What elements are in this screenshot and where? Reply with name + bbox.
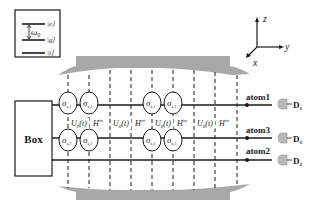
box-label: Box bbox=[24, 133, 43, 145]
detector-d1: D1 bbox=[278, 99, 303, 111]
box: Box bbox=[15, 101, 52, 176]
svg-text:D2: D2 bbox=[293, 156, 303, 167]
svg-text:U0(t): U0(t) bbox=[113, 119, 129, 129]
x-axis-label: x bbox=[252, 57, 258, 68]
level-i-label: |i⟩ bbox=[47, 49, 54, 57]
atom2-dot bbox=[245, 158, 249, 162]
detector-icon bbox=[278, 155, 287, 165]
sigma-operators-bottom: σx,3 σx,3 σx,3 σx,3 bbox=[59, 129, 182, 151]
z-axis-label: z bbox=[262, 13, 267, 24]
atom1-dot bbox=[245, 103, 249, 107]
svg-text:U0(t): U0(t) bbox=[71, 119, 87, 129]
svg-text:D3: D3 bbox=[293, 134, 303, 145]
detector-icon bbox=[278, 99, 287, 109]
coordinate-axes: z y x bbox=[246, 13, 290, 68]
atom2-label: atom2 bbox=[246, 146, 270, 156]
top-cavity-mirror bbox=[58, 56, 250, 75]
y-axis-label: y bbox=[284, 41, 290, 52]
detector-d2: D2 bbox=[278, 155, 303, 167]
energy-level-legend: ω0 |e⟩ |g⟩ |i⟩ bbox=[15, 10, 60, 57]
detector-d3: D3 bbox=[278, 133, 303, 145]
svg-text:D1: D1 bbox=[293, 100, 303, 111]
atom1-label: atom1 bbox=[246, 92, 270, 102]
detector-icon bbox=[278, 133, 287, 143]
svg-text:U0(t): U0(t) bbox=[197, 119, 213, 129]
level-g-label: |g⟩ bbox=[47, 36, 55, 44]
atom3-label: atom3 bbox=[246, 125, 270, 135]
sigma-operators-top: σx,1 σx,1 σx,1 σx,1 bbox=[59, 92, 182, 114]
bottom-cavity-mirror bbox=[58, 184, 250, 200]
cavity-diagram: ω0 |e⟩ |g⟩ |i⟩ z y x Box bbox=[0, 0, 321, 208]
level-e-label: |e⟩ bbox=[47, 20, 55, 28]
atom3-dot bbox=[245, 136, 249, 140]
svg-text:U0(t): U0(t) bbox=[155, 119, 171, 129]
